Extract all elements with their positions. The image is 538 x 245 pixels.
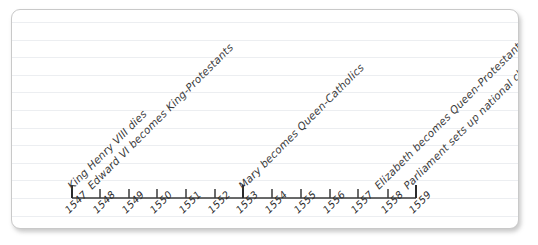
year-label-1555: 1555 (292, 189, 319, 216)
event-label-henry-viii-dies: King Henry VIII dies (65, 107, 149, 191)
timeline-drawing: 1547154815491550155115521553155415551556… (12, 10, 518, 228)
event-annotations: King Henry VIII diesEdward VI becomes Ki… (65, 36, 519, 192)
year-label-1547: 1547 (63, 189, 90, 216)
year-label-1559: 1559 (407, 189, 434, 216)
timeline-screenshot: 1547154815491550155115521553155415551556… (0, 0, 538, 245)
event-label-edward-vi-king: Edward VI becomes King-Protestants (85, 41, 236, 192)
event-label-elizabeth-queen: Elizabeth becomes Queen-Protestants (372, 36, 519, 192)
year-labels: 1547154815491550155115521553155415551556… (63, 189, 434, 216)
event-label-mary-queen: Mary becomes Queen-Catholics (236, 61, 366, 191)
year-label-1558: 1558 (379, 189, 406, 216)
year-label-1550: 1550 (148, 189, 175, 216)
year-label-1554: 1554 (263, 189, 290, 216)
year-label-1551: 1551 (177, 189, 204, 216)
year-label-1549: 1549 (120, 189, 147, 216)
year-label-1556: 1556 (321, 189, 348, 216)
year-label-1553: 1553 (234, 189, 261, 216)
year-label-1548: 1548 (91, 189, 118, 216)
year-label-1557: 1557 (349, 189, 376, 216)
year-label-1552: 1552 (206, 189, 233, 216)
notebook-paper-card: 1547154815491550155115521553155415551556… (11, 9, 519, 229)
